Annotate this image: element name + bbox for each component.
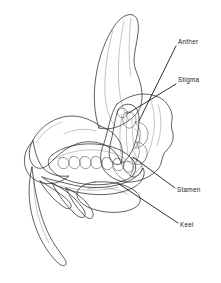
flower-diagram-svg: Anther Stigma Stamen Keel xyxy=(0,0,221,283)
flower-anatomy-figure: Anther Stigma Stamen Keel xyxy=(0,0,221,283)
label-anther: Anther xyxy=(178,38,199,45)
label-keel: Keel xyxy=(180,221,194,228)
label-stigma: Stigma xyxy=(178,76,200,84)
label-stamen: Stamen xyxy=(177,186,201,193)
